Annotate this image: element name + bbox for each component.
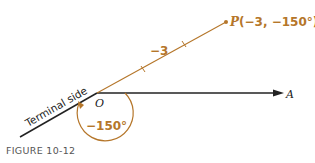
- polar-diagram: P(−3, −150°) −3 O A Terminal side −150° …: [0, 0, 315, 163]
- segment-length-label: −3: [150, 44, 168, 58]
- origin-label: O: [95, 97, 104, 110]
- point-P-dot: [224, 20, 228, 24]
- ray-A-label: A: [285, 88, 294, 101]
- point-label: P(−3, −150°): [229, 15, 315, 29]
- arrow-head-icon: [273, 90, 284, 97]
- figure-caption: FIGURE 10-12: [6, 145, 75, 156]
- angle-label: −150°: [86, 119, 127, 133]
